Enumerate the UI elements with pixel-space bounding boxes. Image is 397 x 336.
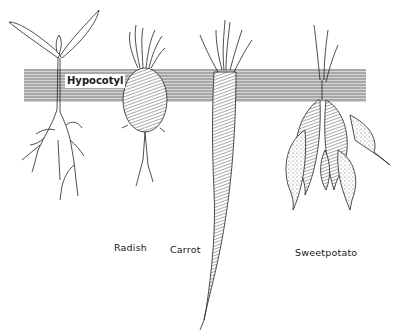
radish-drawing	[122, 25, 167, 186]
sweetpotato-drawing	[286, 25, 390, 210]
radish-label: Radish	[114, 242, 147, 253]
carrot-drawing	[200, 20, 252, 330]
carrot-label: Carrot	[170, 244, 201, 255]
root-diagram: Hypocotyl Radish Carrot Sweetpotato	[0, 0, 397, 336]
diagram-canvas	[0, 0, 397, 336]
sweetpotato-label: Sweetpotato	[295, 247, 357, 258]
seedling-drawing	[9, 10, 99, 200]
hypocotyl-label: Hypocotyl	[65, 74, 125, 88]
